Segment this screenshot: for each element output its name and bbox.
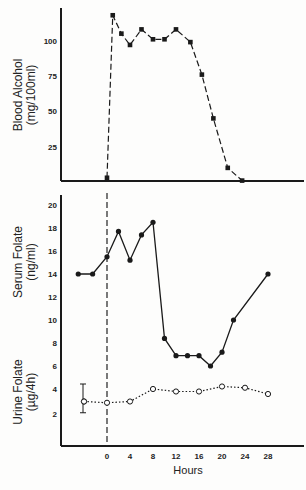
urine-folate-data-point — [150, 386, 155, 391]
blood-alcohol-data-point — [139, 27, 144, 32]
blood-alcohol-tick-label: 25 — [48, 143, 57, 152]
blood-alcohol-tick-label: 75 — [48, 72, 57, 81]
blood-alcohol-tick-label: 100 — [44, 37, 58, 46]
serum-folate-data-point — [127, 258, 132, 263]
serum-folate-tick-label: 8 — [53, 339, 58, 348]
serum-folate-tick-label: 16 — [48, 247, 57, 256]
hours-tick-label: 20 — [218, 452, 227, 461]
serum-folate-data-point — [173, 353, 178, 358]
urine-folate-data-point — [104, 400, 109, 405]
blood-alcohol-data-point — [211, 116, 216, 121]
serum-folate-data-point — [150, 220, 155, 225]
hours-tick-label: 4 — [128, 452, 133, 461]
serum-folate-series — [76, 220, 271, 369]
urine-folate-data-point — [265, 391, 270, 396]
chart-canvas: 255075100 Blood Alcohol (mg/100ml) 68101… — [0, 0, 306, 490]
urine-folate-data-point — [196, 389, 201, 394]
serum-folate-data-point — [116, 229, 121, 234]
blood-alcohol-data-point — [240, 178, 245, 183]
blood-alcohol-data-point — [162, 37, 167, 42]
serum-folate-tick-label: 6 — [53, 362, 58, 371]
serum-folate-axis-title: Serum Folate — [11, 226, 25, 298]
serum-folate-data-point — [76, 271, 81, 276]
hours-tick-label: 12 — [172, 452, 181, 461]
blood-alcohol-data-point — [188, 40, 193, 45]
blood-alcohol-tick-label: 50 — [48, 107, 57, 116]
serum-folate-data-point — [219, 350, 224, 355]
folate-panel: 68101214161820 24 0481216202428 Serum Fo… — [11, 193, 304, 476]
serum-folate-data-point — [104, 254, 109, 259]
serum-folate-data-point — [185, 353, 190, 358]
figure: 255075100 Blood Alcohol (mg/100ml) 68101… — [0, 0, 306, 490]
blood-alcohol-axis-title: Blood Alcohol — [11, 59, 25, 132]
urine-folate-tick-label: 2 — [53, 410, 58, 419]
serum-folate-tick-label: 14 — [48, 270, 57, 279]
urine-folate-axis-title: Urine Folate — [11, 359, 25, 425]
serum-folate-tick-label: 20 — [48, 201, 57, 210]
urine-folate-data-point — [242, 385, 247, 390]
blood-alcohol-data-point — [110, 13, 115, 18]
serum-folate-data-point — [265, 271, 270, 276]
urine-folate-data-point — [173, 389, 178, 394]
blood-alcohol-data-point — [225, 166, 230, 171]
serum-folate-data-point — [231, 317, 236, 322]
serum-folate-tick-labels: 68101214161820 — [48, 201, 57, 371]
hours-tick-label: 24 — [241, 452, 250, 461]
blood-alcohol-data-point — [174, 27, 179, 32]
blood-alcohol-data-point — [119, 31, 124, 36]
hours-tick-label: 16 — [195, 452, 204, 461]
blood-alcohol-tick-labels: 255075100 — [44, 37, 58, 152]
blood-alcohol-series — [105, 13, 245, 183]
urine-folate-tick-label: 4 — [53, 385, 58, 394]
hours-axis-title: Hours — [173, 464, 203, 476]
blood-alcohol-line — [107, 15, 242, 180]
serum-folate-data-point — [139, 232, 144, 237]
urine-folate-axis-unit: (µg/4h) — [24, 373, 38, 411]
hours-tick-label: 8 — [151, 452, 156, 461]
serum-folate-axis-unit: (ng/ml) — [24, 243, 38, 280]
hours-tick-label: 0 — [105, 452, 110, 461]
blood-alcohol-data-point — [200, 72, 205, 77]
urine-folate-tick-labels: 24 — [53, 385, 58, 419]
serum-folate-data-point — [90, 271, 95, 276]
serum-folate-data-point — [162, 336, 167, 341]
serum-folate-data-point — [196, 353, 201, 358]
serum-folate-tick-label: 12 — [48, 293, 57, 302]
urine-folate-data-point — [127, 399, 132, 404]
blood-alcohol-data-point — [128, 43, 133, 48]
blood-alcohol-axis-unit: (mg/100ml) — [24, 65, 38, 126]
serum-folate-tick-label: 18 — [48, 224, 57, 233]
urine-folate-data-point — [219, 384, 224, 389]
blood-alcohol-data-point — [151, 37, 156, 42]
serum-folate-tick-label: 10 — [48, 316, 57, 325]
serum-folate-data-point — [208, 363, 213, 368]
blood-alcohol-panel: 255075100 Blood Alcohol (mg/100ml) — [11, 8, 304, 183]
hours-tick-labels: 0481216202428 — [105, 452, 273, 461]
urine-folate-data-point — [81, 399, 86, 404]
urine-folate-series — [80, 384, 271, 413]
blood-alcohol-data-point — [105, 175, 110, 180]
hours-tick-label: 28 — [264, 452, 273, 461]
